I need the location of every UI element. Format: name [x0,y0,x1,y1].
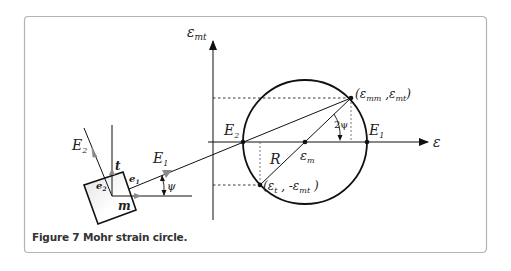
label-element-E2: E2 [71,137,87,155]
label-center: εm [300,148,315,165]
figure-frame [25,18,232,19]
label-element-E1: E1 [152,150,168,168]
vertical-axis-label: εmt [187,24,207,42]
point-center [303,140,308,145]
angle-2psi-arrowhead [338,135,343,141]
label-e1: e1 [129,173,140,185]
label-2psi: 2ψ [334,119,348,130]
e1-arrow-icon [162,170,172,178]
label-t: t [115,159,121,173]
horizontal-axis-label: ε [433,134,441,150]
label-bottom-point: (εt , -εmt ) [263,179,319,195]
label-top-point: (εmm ,εmt) [355,87,411,103]
figure-caption: Figure 7 Mohr strain circle. [32,231,187,243]
point-E1 [365,140,370,145]
label-E2: E2 [223,122,239,140]
frame [25,17,487,253]
m-arrow-icon [134,193,142,199]
label-psi: ψ [167,180,176,193]
psi-arrowhead [162,190,167,196]
label-m: m [118,199,131,213]
label-E1: E1 [368,122,384,140]
point-E2 [241,140,246,145]
e2-arrow-icon [92,148,97,157]
point-bottom [258,183,263,188]
point-top [349,96,354,101]
strain-element: E2 E1 t m e1 e2 ψ [71,125,192,224]
outer-frame [30,17,487,114]
label-radius: R [269,151,281,167]
